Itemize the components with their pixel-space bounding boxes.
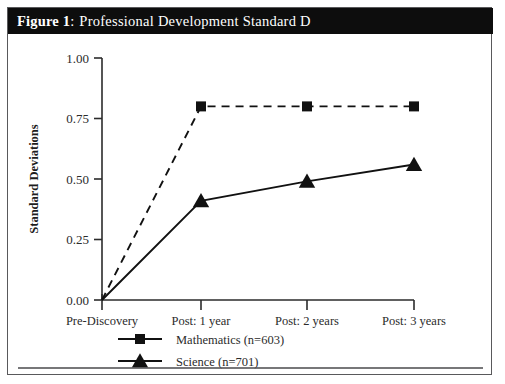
series-line-mathematics [102,106,414,300]
figure-title: Professional Development Standard D [74,13,310,30]
y-tick-label: 0.00 [66,293,89,308]
figure-number: Figure 1 [8,13,70,30]
data-point-mathematics-2 [302,101,312,111]
chart-legend: Mathematics (n=603)Science (n=701) [118,333,284,369]
y-tick-label: 0.25 [66,232,89,247]
line-chart: 0.000.250.500.751.00 Pre-DiscoveryPost: … [8,34,493,376]
legend-marker-square [135,334,145,344]
x-tick-label: Pre-Discovery [66,314,139,328]
x-tick-label: Post: 2 years [275,314,339,328]
chart-area: 0.000.250.500.751.00 Pre-DiscoveryPost: … [8,34,493,376]
legend-label-0: Mathematics (n=603) [176,333,284,347]
data-point-science-3 [406,157,422,171]
y-axis-ticks: 0.000.250.500.751.00 [66,51,102,308]
x-tick-label: Post: 3 years [382,314,446,328]
figure-container: Figure 1:Professional Development Standa… [7,7,492,375]
y-tick-label: 0.50 [66,172,89,187]
legend-label-1: Science (n=701) [176,355,258,369]
data-point-mathematics-1 [196,101,206,111]
series-layer [102,101,422,300]
x-tick-label: Post: 1 year [171,314,231,328]
y-tick-label: 0.75 [66,111,89,126]
figure-title-bar: Figure 1:Professional Development Standa… [8,8,493,34]
series-line-science [102,164,414,300]
data-point-mathematics-3 [409,101,419,111]
x-axis-ticks: Pre-DiscoveryPost: 1 yearPost: 2 yearsPo… [66,294,446,328]
y-axis-title: Standard Deviations [27,124,41,234]
axis-group [102,58,414,300]
y-tick-label: 1.00 [66,51,89,66]
